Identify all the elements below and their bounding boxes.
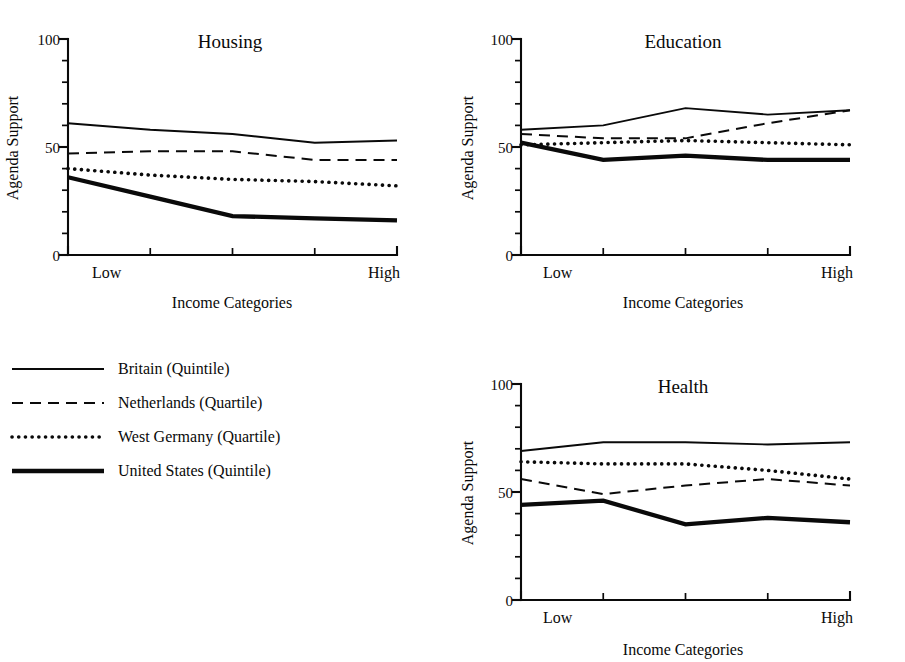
series-line-united_states (521, 501, 850, 525)
legend-item-netherlands[interactable]: Netherlands (Quartile) (10, 386, 370, 420)
series-line-west_germany (521, 141, 850, 145)
education-series-group (521, 108, 850, 160)
housing-x-high-label: High (368, 264, 400, 282)
health-title: Health (658, 376, 709, 397)
health-x-low-label: Low (543, 609, 573, 626)
housing-title: Housing (198, 31, 263, 52)
housing-ytick-50: 50 (45, 140, 60, 156)
education-x-axis-label: Income Categories (623, 294, 743, 312)
legend-swatch-west_germany-icon (10, 430, 106, 444)
series-line-west_germany (68, 169, 397, 186)
legend-item-west_germany[interactable]: West Germany (Quartile) (10, 420, 370, 454)
series-line-britain (521, 442, 850, 451)
legend-item-britain[interactable]: Britain (Quintile) (10, 352, 370, 386)
education-x-low-label: Low (543, 264, 573, 281)
health-ytick-50: 50 (498, 485, 513, 501)
series-line-britain (68, 123, 397, 142)
chart-panel-housing: Housing Agenda Support Income Categories… (0, 0, 460, 330)
chart-legend: Britain (Quintile)Netherlands (Quartile)… (10, 352, 370, 512)
education-axes (512, 39, 850, 255)
legend-label-britain: Britain (Quintile) (118, 360, 230, 378)
health-plot: Health Agenda Support Income Categories … (455, 345, 905, 662)
health-series-group (521, 442, 850, 524)
health-y-axis-label: Agenda Support (459, 440, 477, 545)
legend-item-united_states[interactable]: United States (Quintile) (10, 454, 370, 488)
series-line-britain (521, 108, 850, 130)
health-axes (512, 384, 850, 600)
housing-series-group (68, 123, 397, 220)
legend-swatch-united_states-icon (10, 464, 106, 478)
chart-panel-health: Health Agenda Support Income Categories … (455, 345, 905, 662)
housing-x-low-label: Low (92, 264, 122, 281)
legend-swatch-netherlands-icon (10, 396, 106, 410)
series-line-netherlands (68, 151, 397, 160)
housing-plot: Housing Agenda Support Income Categories… (0, 0, 460, 330)
education-y-axis-label: Agenda Support (459, 95, 477, 200)
series-line-west_germany (521, 462, 850, 479)
housing-axes (59, 39, 397, 255)
chart-panel-education: Education Agenda Support Income Categori… (455, 0, 905, 330)
legend-list: Britain (Quintile)Netherlands (Quartile)… (10, 352, 370, 488)
legend-swatch-britain-icon (10, 362, 106, 376)
housing-ytick-0: 0 (53, 248, 61, 264)
legend-label-west_germany: West Germany (Quartile) (118, 428, 280, 446)
housing-ytick-100: 100 (38, 32, 61, 48)
health-x-axis-label: Income Categories (623, 641, 743, 659)
series-line-netherlands (521, 479, 850, 494)
health-ytick-0: 0 (506, 593, 514, 609)
legend-label-netherlands: Netherlands (Quartile) (118, 394, 262, 412)
legend-label-united_states: United States (Quintile) (118, 462, 271, 480)
housing-x-axis-label: Income Categories (172, 294, 292, 312)
series-line-united_states (521, 143, 850, 160)
education-x-high-label: High (821, 264, 853, 282)
education-plot: Education Agenda Support Income Categori… (455, 0, 905, 330)
housing-y-axis-label: Agenda Support (4, 95, 22, 200)
education-ytick-100: 100 (491, 32, 514, 48)
series-line-netherlands (521, 110, 850, 138)
education-title: Education (644, 31, 722, 52)
health-ytick-100: 100 (491, 377, 514, 393)
education-ytick-0: 0 (506, 248, 514, 264)
education-ytick-50: 50 (498, 140, 513, 156)
health-x-high-label: High (821, 609, 853, 627)
